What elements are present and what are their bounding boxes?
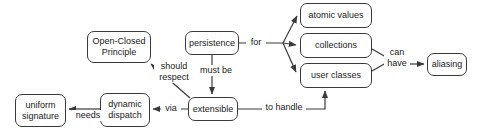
node-open-closed-principle[interactable]: Open-Closed Principle — [87, 31, 151, 63]
node-label: atomic values — [308, 10, 363, 21]
node-label: aliasing — [432, 59, 463, 70]
node-extensible[interactable]: extensible — [188, 97, 238, 121]
node-label: extensible — [193, 104, 234, 115]
concept-map-diagram: Open-Closed Principle persistence atomic… — [0, 0, 477, 136]
edge-label-can-have: can have — [384, 47, 410, 69]
node-label: user classes — [311, 70, 361, 81]
edge-for-collections — [283, 43, 296, 45]
edge-label-to-handle: to handle — [262, 102, 306, 113]
node-label: uniform signature — [22, 100, 59, 122]
edge-for-atomic-values — [283, 16, 297, 43]
edge-label-via: via — [161, 103, 181, 114]
node-user-classes[interactable]: user classes — [300, 63, 372, 88]
edge-label-for: for — [246, 37, 266, 48]
node-label: dynamic dispatch — [108, 99, 142, 121]
node-dynamic-dispatch[interactable]: dynamic dispatch — [100, 93, 150, 127]
node-atomic-values[interactable]: atomic values — [300, 3, 372, 28]
node-aliasing[interactable]: aliasing — [427, 53, 467, 76]
node-label: Open-Closed Principle — [92, 36, 145, 58]
edge-label-must-be: must be — [196, 65, 236, 76]
node-persistence[interactable]: persistence — [185, 31, 239, 55]
node-collections[interactable]: collections — [300, 33, 372, 58]
node-label: persistence — [189, 38, 235, 49]
node-uniform-signature[interactable]: uniform signature — [15, 94, 66, 127]
edge-for-user-classes — [283, 43, 296, 72]
edge-label-should-respect: should respect — [154, 61, 194, 83]
edge-label-needs: needs — [72, 110, 104, 121]
node-label: collections — [315, 40, 357, 51]
